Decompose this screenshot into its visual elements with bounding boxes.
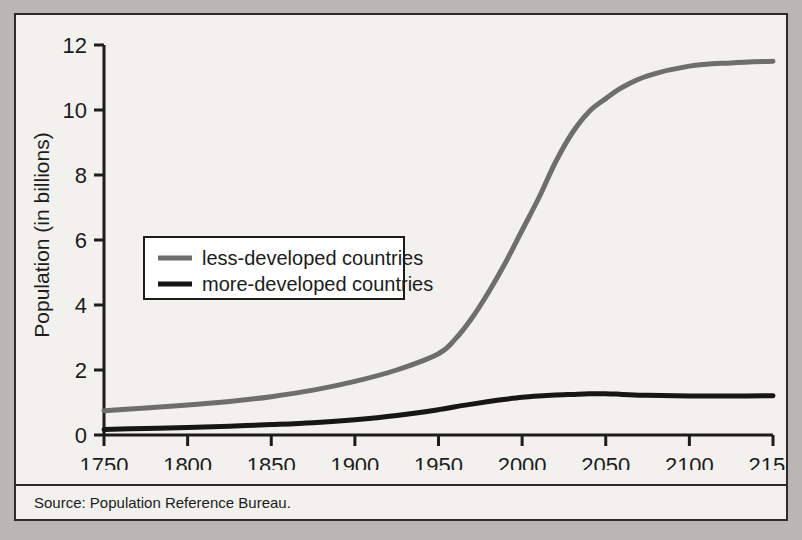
x-tick-label: 2000 (498, 453, 547, 470)
y-tick-label: 6 (75, 228, 87, 253)
plot-area: 0246810121750180018501900195020002050210… (16, 15, 786, 470)
series-line (104, 61, 773, 410)
y-axis-label: Population (in billions) (22, 15, 62, 455)
y-tick-label: 4 (75, 293, 87, 318)
series-line (104, 394, 773, 430)
y-tick-label: 0 (75, 423, 87, 448)
x-tick-label: 1750 (80, 453, 129, 470)
x-tick-label: 2100 (665, 453, 714, 470)
y-axis-label-text: Population (in billions) (30, 132, 54, 337)
x-tick-label: 2050 (581, 453, 630, 470)
y-tick-label: 10 (63, 98, 87, 123)
footer-divider (16, 484, 786, 486)
x-tick-label: 1950 (414, 453, 463, 470)
x-tick-label: 1900 (330, 453, 379, 470)
legend-label-0: less-developed countries (202, 247, 423, 269)
source-note: Source: Population Reference Bureau. (34, 494, 291, 511)
x-tick-label: 2150 (749, 453, 786, 470)
legend-label-1: more-developed countries (202, 273, 433, 295)
y-tick-label: 8 (75, 163, 87, 188)
x-tick-label: 1850 (247, 453, 296, 470)
figure-frame: 0246810121750180018501900195020002050210… (14, 13, 788, 521)
x-tick-label: 1800 (163, 453, 212, 470)
population-line-chart: 0246810121750180018501900195020002050210… (16, 15, 786, 470)
y-tick-label: 2 (75, 358, 87, 383)
y-tick-label: 12 (63, 33, 87, 58)
